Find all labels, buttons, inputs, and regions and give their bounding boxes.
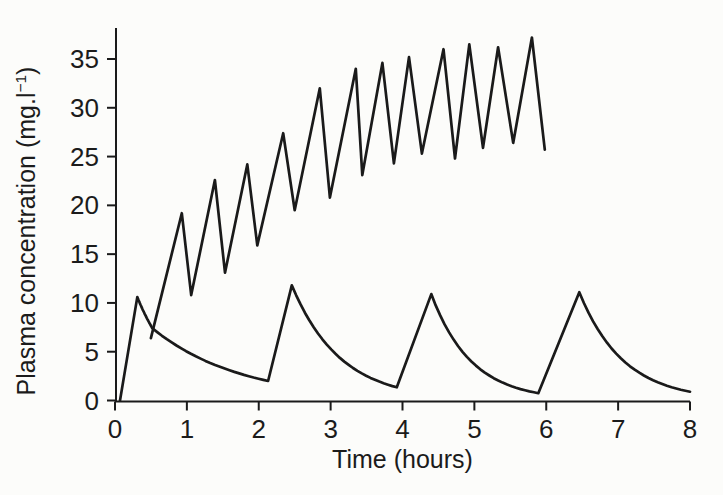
chart-canvas: 05101520253035012345678	[0, 0, 723, 495]
x-axis-title: Time (hours)	[115, 445, 690, 474]
x-tick-label-0: 0	[108, 414, 122, 444]
y-tick-label-10: 10	[70, 288, 99, 318]
y-axis-title-text: Plasma concentration (mg.l	[12, 93, 40, 396]
x-tick-label-2: 2	[252, 414, 266, 444]
y-axis-title-superscript: −1	[12, 75, 29, 93]
series-frequent-repeated-doses-sawtooth	[151, 38, 545, 339]
y-tick-label-35: 35	[70, 44, 99, 74]
y-tick-label-5: 5	[85, 337, 99, 367]
x-tick-label-6: 6	[539, 414, 553, 444]
y-axis-title-close: )	[12, 67, 40, 75]
y-tick-label-30: 30	[70, 93, 99, 123]
y-tick-label-20: 20	[70, 190, 99, 220]
series-two-hourly-doses-curve	[120, 285, 690, 400]
y-tick-label-15: 15	[70, 239, 99, 269]
plasma-concentration-chart-figure: 05101520253035012345678 Time (hours) Pla…	[0, 0, 723, 495]
y-tick-label-0: 0	[85, 386, 99, 416]
y-axis-title: Plasma concentration (mg.l−1)	[12, 16, 42, 446]
x-tick-label-7: 7	[611, 414, 625, 444]
y-tick-label-25: 25	[70, 142, 99, 172]
x-tick-label-5: 5	[467, 414, 481, 444]
x-tick-label-1: 1	[180, 414, 194, 444]
x-tick-label-8: 8	[683, 414, 697, 444]
x-tick-label-4: 4	[395, 414, 409, 444]
x-tick-label-3: 3	[323, 414, 337, 444]
